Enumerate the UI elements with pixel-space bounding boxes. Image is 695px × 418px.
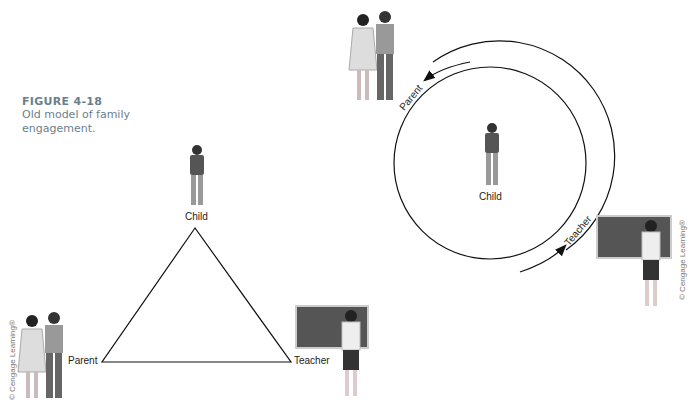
child-figure-circle [485,123,499,185]
triangle-shape [102,228,291,362]
parents-figure-top [349,11,394,100]
teacher-figure-bottom [296,306,368,396]
teacher-figure-right [597,216,671,306]
credit-right: © Cengage Learning® [678,220,687,300]
arrow-to-teacher [520,246,565,272]
circle-child-label: Child [479,191,502,202]
triangle-teacher-label: Teacher [294,355,330,366]
credit-left: © Cengage Learning® [8,320,17,400]
child-figure-triangle [190,145,204,205]
parents-figure-bottom [18,312,63,398]
triangle-parent-label: Parent [68,355,97,366]
triangle-child-label: Child [185,211,208,222]
diagram-canvas [0,0,695,418]
